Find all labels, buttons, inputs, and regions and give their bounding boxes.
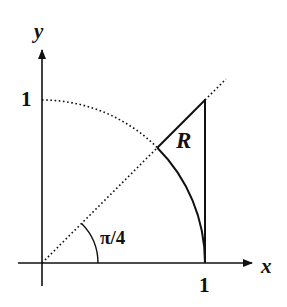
diagonal-line-extension	[205, 79, 226, 100]
angle-label: π/4	[100, 227, 126, 248]
x-axis-label: x	[260, 254, 272, 278]
unit-circle-arc-dotted	[42, 100, 157, 148]
x-tick-label: 1	[199, 273, 210, 297]
diagram-canvas: y x 1 1 R π/4	[0, 0, 287, 307]
y-tick-label: 1	[21, 87, 32, 111]
y-axis-label: y	[31, 19, 44, 43]
angle-arc	[82, 223, 98, 263]
unit-circle-arc-solid	[157, 148, 205, 263]
region-label: R	[175, 128, 191, 153]
